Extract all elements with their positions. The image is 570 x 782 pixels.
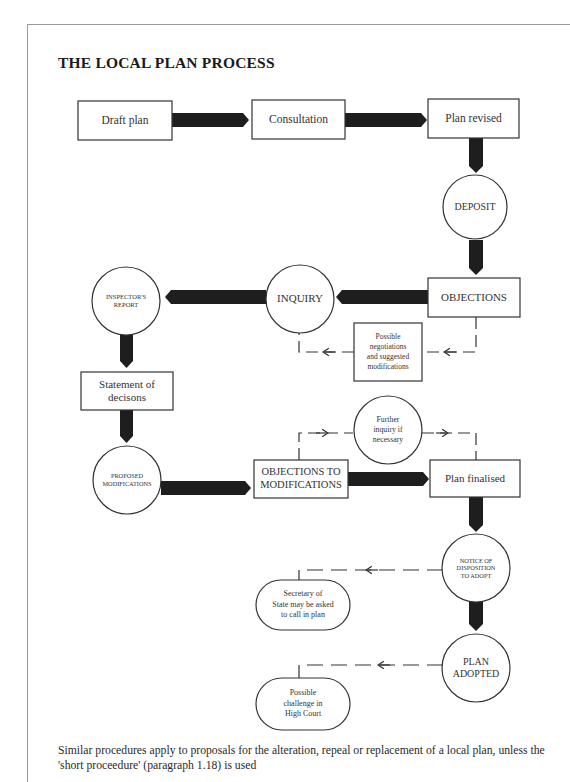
dashed-further-to-finalised (422, 433, 476, 460)
label-plan-revised: Plan revised (428, 99, 519, 138)
arrow-notice-to-adopted (469, 602, 483, 631)
text-challenge-line3: High Court (285, 709, 321, 719)
label-inquiry: INQUIRY (266, 265, 334, 333)
flow-arrows (120, 113, 483, 631)
label-secretary-of-state: Secretary of State may be asked to call … (256, 580, 350, 630)
text-objmods-line2: MODIFICATIONS (260, 479, 342, 492)
label-statement-of-decisions: Statement of decisons (81, 372, 173, 410)
label-inspectors-report: INSPECTOR'S REPORT (92, 267, 160, 335)
text-inspectors-report-line2: REPORT (114, 301, 139, 309)
text-statement-line2: decisons (108, 391, 146, 404)
text-notice-line2: DISPOSITION (457, 564, 496, 572)
arrow-inquiry-to-inspector (165, 290, 266, 304)
text-adopted-line1: PLAN (463, 656, 489, 668)
label-further-inquiry: Further inquiry if necessary (354, 396, 422, 464)
dashed-objmods-to-further (299, 433, 353, 460)
arrow-draft-to-consultation (172, 113, 249, 127)
text-proposed-line1: PROPOSED (111, 472, 143, 480)
label-objections: OBJECTIONS (428, 278, 520, 317)
text-inspectors-report-line1: INSPECTOR'S (106, 293, 146, 301)
text-inquiry: INQUIRY (277, 292, 323, 305)
arrow-revised-to-deposit (469, 138, 483, 173)
text-proposed-line2: MODIFICATIONS (103, 480, 152, 488)
arrow-statement-to-proposed (120, 410, 133, 443)
text-further-line3: necessary (373, 435, 403, 445)
text-draft-plan: Draft plan (102, 114, 149, 128)
text-consultation: Consultation (269, 113, 328, 127)
text-adopted-line2: ADOPTED (453, 668, 500, 680)
text-further-line2: inquiry if (373, 425, 402, 435)
label-plan-finalised: Plan finalised (430, 460, 520, 497)
text-deposit: DEPOSIT (454, 201, 495, 213)
arrow-finalised-to-notice (469, 497, 483, 532)
text-secretary-line1: Secretary of (284, 589, 323, 599)
text-negotiations-line3: and suggested (367, 352, 409, 362)
footnote: Similar procedures apply to proposals fo… (58, 743, 568, 773)
dashed-objections-to-negotiations (422, 317, 476, 352)
label-notice-of-disposition: NOTICE OF DISPOSITION TO ADOPT (442, 534, 510, 602)
label-plan-adopted: PLAN ADOPTED (442, 634, 510, 702)
dashed-adopted-to-challenge (299, 665, 443, 678)
label-consultation: Consultation (252, 100, 345, 139)
dashed-notice-to-secretary (299, 570, 443, 580)
text-objmods-line1: OBJECTIONS TO (261, 466, 340, 479)
text-secretary-line3: to call in plan (281, 610, 325, 620)
arrow-inspector-to-statement (120, 335, 133, 368)
arrow-objections-to-inquiry (336, 290, 428, 304)
dashed-negotiations-to-inquiry (299, 333, 354, 352)
label-draft-plan: Draft plan (78, 101, 172, 140)
text-plan-revised: Plan revised (445, 112, 502, 126)
text-notice-line3: TO ADOPT (461, 572, 492, 580)
text-challenge-line2: challenge in (284, 699, 323, 709)
arrow-proposed-to-objmods (161, 481, 251, 495)
text-notice-line1: NOTICE OF (460, 557, 493, 565)
arrow-consultation-to-revised (345, 113, 427, 127)
label-high-court-challenge: Possible challenge in High Court (256, 678, 350, 730)
text-plan-finalised: Plan finalised (445, 472, 505, 485)
label-proposed-modifications: PROPOSED MODIFICATIONS (93, 446, 161, 514)
text-negotiations-line2: negotiations (370, 342, 407, 352)
label-deposit: DEPOSIT (443, 175, 507, 239)
arrow-deposit-to-objections (469, 240, 483, 275)
text-statement-line1: Statement of (99, 378, 155, 391)
text-secretary-line2: State may be asked (272, 600, 334, 610)
arrow-objmods-to-finalised (348, 472, 429, 486)
text-negotiations-line4: modifications (367, 362, 408, 372)
text-objections: OBJECTIONS (441, 291, 507, 304)
label-possible-negotiations: Possible negotiations and suggested modi… (354, 323, 422, 381)
text-further-line1: Further (377, 415, 400, 425)
text-challenge-line1: Possible (290, 688, 317, 698)
label-objections-to-modifications: OBJECTIONS TO MODIFICATIONS (254, 460, 348, 498)
text-negotiations-line1: Possible (375, 332, 400, 342)
